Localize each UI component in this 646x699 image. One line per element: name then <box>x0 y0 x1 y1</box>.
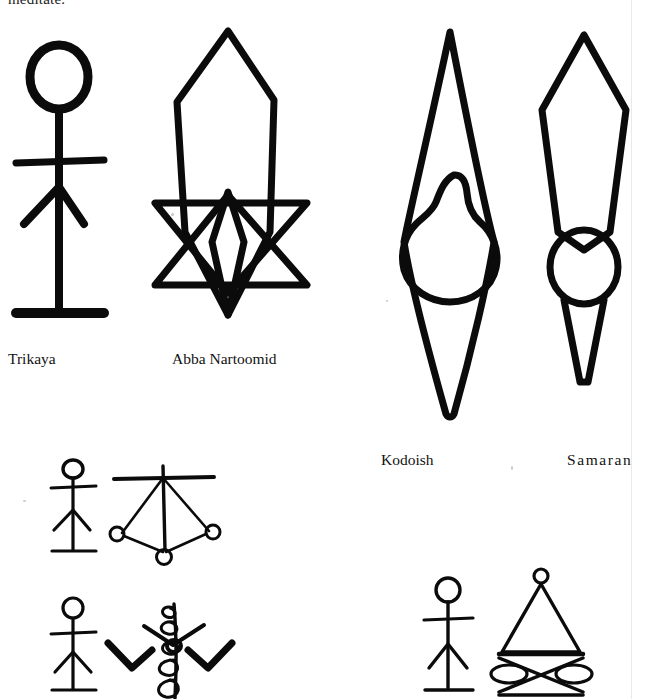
figure-small-figure-lower-left <box>44 596 104 699</box>
edge-left <box>122 478 163 533</box>
tail-point <box>564 300 604 382</box>
arm-bar <box>51 486 96 488</box>
scan-speck <box>23 500 26 502</box>
scan-speck <box>171 213 174 216</box>
vesica-flame-outer <box>177 31 274 315</box>
waist-circle <box>550 230 618 304</box>
arm-bar <box>51 632 96 634</box>
edge-base-right <box>166 534 206 552</box>
figure-kodoish-symbol <box>388 30 512 420</box>
figure-tetrahedron-symbol <box>108 462 224 566</box>
hexagram-down-triangle <box>155 203 307 293</box>
page-canvas: meditate. <box>0 0 646 699</box>
figure-abba-nartoomid-symbol <box>150 27 326 343</box>
lens-right <box>556 665 592 683</box>
figure-small-figure-lower-right <box>418 576 480 699</box>
caption-samaran: Samaran <box>567 451 632 469</box>
blade-outline <box>542 35 626 250</box>
arm-bar <box>16 160 104 163</box>
figure-samaran-symbol <box>530 32 640 388</box>
scan-speck <box>511 466 513 470</box>
edge-right <box>163 478 209 531</box>
arm-bar <box>424 618 473 620</box>
base-right-circle <box>206 525 220 539</box>
leg-v <box>24 187 84 224</box>
caption-trikaya: Trikaya <box>8 350 56 368</box>
edge-base-left <box>124 536 163 552</box>
lens-left <box>491 665 527 683</box>
scan-speck <box>386 300 388 302</box>
caption-kodoish: Kodoish <box>381 451 434 469</box>
head-circle <box>436 578 460 602</box>
figure-small-figure-upper-left <box>44 458 104 562</box>
figure-cone-bowtie-symbol <box>482 566 602 699</box>
lower-arms-left <box>108 643 152 668</box>
head-circle <box>63 460 83 478</box>
top-partial-text: meditate. <box>8 0 65 8</box>
cone-outline <box>502 584 580 652</box>
caption-abba-nartoomid: Abba Nartoomid <box>172 350 277 368</box>
figure-caduceus-symbol <box>104 598 240 699</box>
figure-trikaya-stick-figure <box>14 32 126 337</box>
head-circle <box>63 598 83 618</box>
lower-arms-right <box>188 643 232 668</box>
apex-circle <box>534 569 548 583</box>
head-circle <box>30 45 88 109</box>
